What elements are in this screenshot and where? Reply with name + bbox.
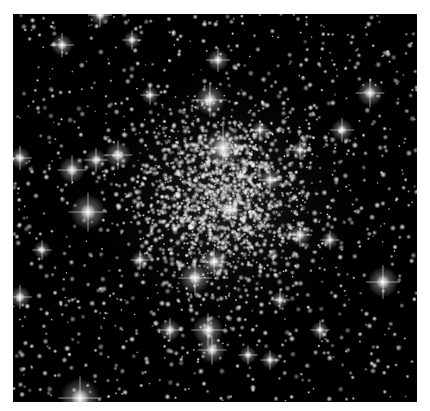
star-field-canvas: [13, 14, 417, 402]
star-cluster-image: [13, 14, 417, 402]
